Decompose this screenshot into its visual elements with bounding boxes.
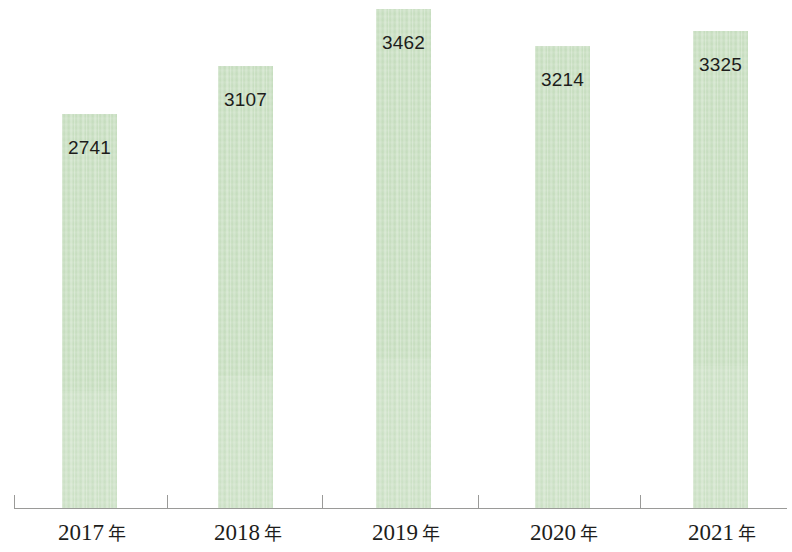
bar-group: 3462 [376, 9, 431, 509]
x-axis-label-2019: 2019年 [336, 516, 476, 551]
x-axis-label-unit: 年 [738, 524, 756, 544]
x-axis-label-2021: 2021年 [652, 516, 792, 551]
axis-tick [322, 495, 323, 509]
x-axis-line [14, 508, 787, 509]
bar-value-label: 3325 [693, 54, 748, 76]
x-axis-label-unit: 年 [422, 524, 440, 544]
bar-value-label: 3214 [535, 69, 590, 91]
axis-tick [640, 495, 641, 509]
axis-tick [14, 495, 15, 509]
bar-value-label: 3462 [376, 32, 431, 54]
bar-value-label: 2741 [62, 137, 117, 159]
x-axis-label-2018: 2018年 [178, 516, 318, 551]
x-axis-label-unit: 年 [580, 524, 598, 544]
x-axis-label-year: 2020 [530, 520, 576, 545]
bar-2021[interactable]: 3325 [693, 31, 748, 509]
bar-group: 3214 [535, 46, 590, 509]
bar-group: 2741 [62, 114, 117, 509]
x-axis-label-unit: 年 [264, 524, 282, 544]
x-axis-label-unit: 年 [108, 524, 126, 544]
bar-value-label: 3107 [218, 89, 273, 111]
x-axis-label-year: 2019 [372, 520, 418, 545]
bar-group: 3107 [218, 66, 273, 509]
x-axis-label-2017: 2017年 [22, 516, 162, 551]
bar-2019[interactable]: 3462 [376, 9, 431, 509]
x-axis-label-2020: 2020年 [494, 516, 634, 551]
plot-area: 2741 3107 3462 3214 3325 [0, 0, 792, 509]
bar-2020[interactable]: 3214 [535, 46, 590, 509]
x-axis-label-year: 2021 [688, 520, 734, 545]
axis-tick [478, 495, 479, 509]
x-axis-label-year: 2018 [214, 520, 260, 545]
x-axis-labels: 2017年 2018年 2019年 2020年 2021年 [0, 516, 792, 552]
axis-tick [167, 495, 168, 509]
bar-group: 3325 [693, 31, 748, 509]
bar-chart: 2741 3107 3462 3214 3325 [0, 0, 792, 552]
bar-2017[interactable]: 2741 [62, 114, 117, 509]
x-axis-label-year: 2017 [58, 520, 104, 545]
bar-2018[interactable]: 3107 [218, 66, 273, 509]
